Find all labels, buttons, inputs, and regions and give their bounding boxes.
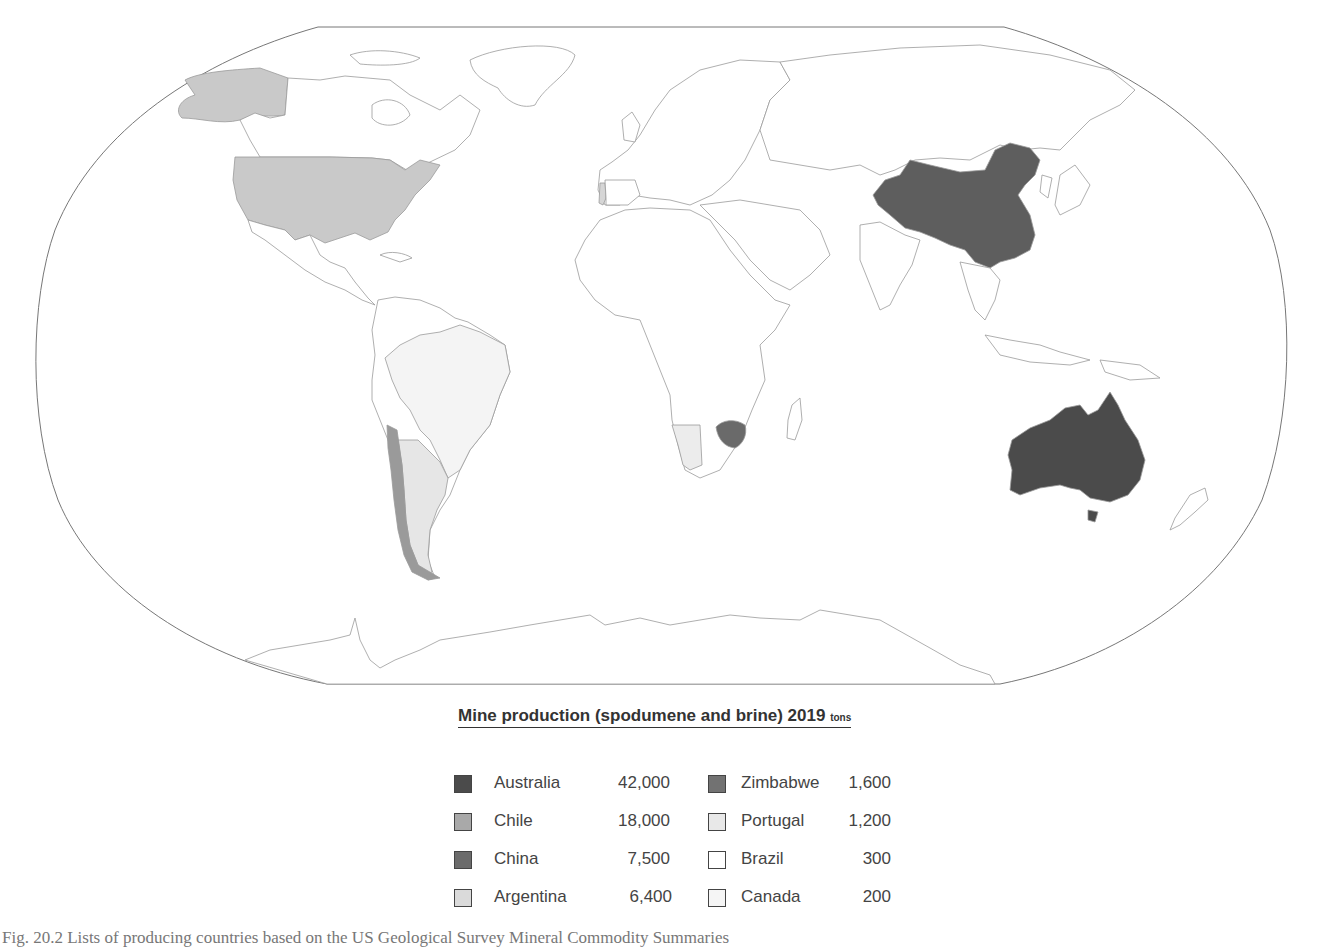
legend-label: Canada <box>741 887 801 907</box>
legend-item-brazil: Brazil 300 <box>708 848 891 886</box>
legend-label: Zimbabwe <box>741 773 819 793</box>
legend-title-text: Mine production (spodumene and brine) 20… <box>458 706 825 725</box>
country-usa-alaska <box>178 68 288 122</box>
legend-item-canada: Canada 200 <box>708 886 891 924</box>
legend-item-china: China 7,500 <box>454 848 684 886</box>
legend-title: Mine production (spodumene and brine) 20… <box>458 706 851 728</box>
legend-value: 42,000 <box>618 773 670 793</box>
legend-value: 18,000 <box>618 811 670 831</box>
legend-label: Australia <box>494 773 560 793</box>
legend-value: 6,400 <box>629 887 672 907</box>
figure-caption: Fig. 20.2 Lists of producing countries b… <box>2 928 729 948</box>
legend-item-argentina: Argentina 6,400 <box>454 886 684 924</box>
map-svg <box>0 0 1322 700</box>
legend-swatch-china <box>454 851 472 869</box>
world-map <box>0 0 1322 700</box>
legend-item-australia: Australia 42,000 <box>454 772 684 810</box>
legend-item-portugal: Portugal 1,200 <box>708 810 891 848</box>
legend-value: 300 <box>863 849 891 869</box>
legend-swatch-brazil <box>708 851 726 869</box>
legend-label: Argentina <box>494 887 567 907</box>
legend-column-left: Australia 42,000 Chile 18,000 China 7,50… <box>454 772 684 924</box>
legend-value: 1,200 <box>848 811 891 831</box>
legend-unit: tons <box>830 712 851 723</box>
legend-label: Brazil <box>741 849 784 869</box>
legend-swatch-chile <box>454 813 472 831</box>
legend-label: China <box>494 849 538 869</box>
legend-value: 200 <box>863 887 891 907</box>
legend-label: Portugal <box>741 811 804 831</box>
legend-value: 7,500 <box>627 849 670 869</box>
legend-swatch-portugal <box>708 813 726 831</box>
legend-swatch-australia <box>454 775 472 793</box>
legend-item-zimbabwe: Zimbabwe 1,600 <box>708 772 891 810</box>
legend-label: Chile <box>494 811 533 831</box>
legend-value: 1,600 <box>848 773 891 793</box>
legend-item-chile: Chile 18,000 <box>454 810 684 848</box>
legend-swatch-zimbabwe <box>708 775 726 793</box>
legend-swatch-canada <box>708 889 726 907</box>
legend-column-right: Zimbabwe 1,600 Portugal 1,200 Brazil 300… <box>708 772 891 924</box>
legend-swatch-argentina <box>454 889 472 907</box>
